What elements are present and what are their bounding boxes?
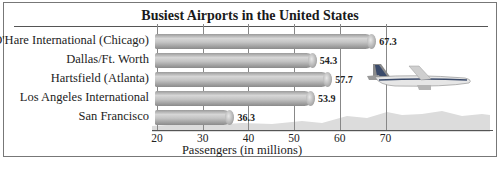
value-label: 57.7 (335, 74, 353, 85)
category-label: O'Hare International (Chicago) (0, 33, 149, 48)
bar (155, 91, 312, 106)
bar (155, 34, 373, 49)
value-label: 36.3 (237, 112, 255, 123)
x-tick-label: 70 (374, 132, 398, 144)
chart-title: Busiest Airports in the United States (4, 8, 496, 24)
bar-end-cap (308, 53, 317, 68)
title-divider (14, 26, 488, 27)
category-label: Los Angeles International (20, 90, 149, 105)
category-label: Dallas/Ft. Worth (66, 52, 149, 67)
x-axis-line (152, 130, 493, 131)
value-label: 53.9 (318, 93, 336, 104)
bar (155, 110, 231, 125)
bar (155, 53, 314, 68)
category-label: Hartsfield (Atlanta) (51, 71, 149, 86)
value-label: 54.3 (320, 55, 338, 66)
bar (155, 72, 329, 87)
airplane-icon (365, 60, 475, 98)
bar-end-cap (306, 91, 315, 106)
x-axis-title: Passengers (in millions) (152, 143, 332, 158)
category-label: San Francisco (79, 109, 149, 124)
value-label: 67.3 (379, 36, 397, 47)
